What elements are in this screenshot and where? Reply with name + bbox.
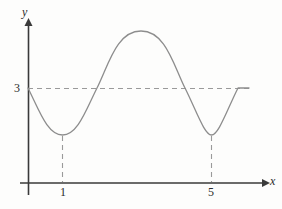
sinusoid-curve (28, 31, 249, 135)
x-tick-label-1: 1 (58, 186, 68, 198)
y-axis-arrow-icon (25, 18, 33, 26)
x-axis-arrow-icon (262, 179, 270, 187)
y-tick-label-3: 3 (14, 82, 20, 94)
graph-figure: y x 3 1 5 (0, 0, 282, 209)
x-axis-label: x (270, 175, 275, 187)
plot-canvas (0, 0, 282, 209)
y-axis (25, 18, 33, 195)
x-tick-label-5: 5 (206, 186, 216, 198)
y-axis-label: y (22, 6, 27, 18)
